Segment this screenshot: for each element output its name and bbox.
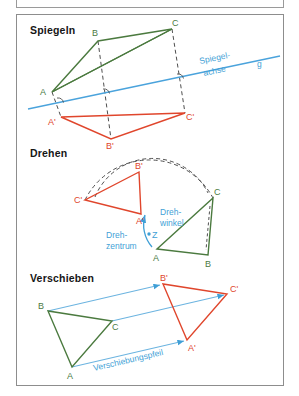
rotation-center-point-Z: Z (152, 230, 158, 240)
mirror-axis-label-line2: achse (202, 63, 227, 77)
vertex-label-A-verschieben: A (67, 371, 73, 381)
rotation-center-label-line2: zentrum (106, 241, 137, 251)
vertex-label-A-spiegeln: A (40, 87, 46, 97)
vertex-label-C-prime-spiegeln: C' (186, 112, 194, 122)
rotation-angle-arc (144, 215, 152, 247)
vertex-label-A-prime-verschieben: A' (188, 343, 196, 353)
vertex-label-A-drehen: A (153, 253, 159, 263)
triangle-original-verschieben (48, 311, 112, 367)
triangle-image-drehen (85, 172, 141, 214)
figure-root: Spiegeln Drehen Verschieben (0, 0, 299, 396)
vertex-label-B-prime-drehen: B' (135, 161, 143, 171)
triangle-image-spiegeln (61, 113, 185, 139)
rotation-angle-label-line1: Dreh- (160, 207, 181, 217)
rotation-angle-label-line2: winkel (159, 218, 184, 228)
mirror-axis-line (28, 56, 280, 109)
vertex-label-C-prime-drehen: C' (74, 195, 82, 205)
vertex-label-A-prime-spiegeln: A' (48, 117, 56, 127)
panel-verschieben-graphics: A B C A' B' C' Verschiebungspfeil (38, 273, 238, 381)
panel-spiegeln-graphics: A B C A' B' C' Spiegel- achse g (28, 18, 280, 151)
translation-arrow-label: Verschiebungspfeil (92, 347, 164, 373)
rotation-arcs (85, 158, 213, 200)
diagram-canvas: A B C A' B' C' Spiegel- achse g (0, 0, 299, 396)
vertex-label-B-spiegeln: B (92, 28, 98, 38)
vertex-label-B-prime-verschieben: B' (160, 273, 168, 283)
triangle-image-verschieben (163, 284, 227, 340)
vertex-label-B-verschieben: B (38, 301, 44, 311)
rotation-center-label-line1: Dreh- (106, 230, 127, 240)
mirror-axis-label-line1: Spiegel- (198, 50, 231, 66)
translation-arrow-B (48, 285, 160, 311)
vertex-label-A-prime-drehen: A' (136, 216, 144, 226)
vertex-label-C-prime-verschieben: C' (230, 284, 238, 294)
vertex-label-C-spiegeln: C (172, 18, 179, 28)
panel-drehen-graphics: A B C A' B' C' Dreh- winkel Dreh- zentru… (74, 158, 221, 269)
vertex-label-C-drehen: C (214, 187, 221, 197)
mirror-axis-name-g: g (257, 59, 262, 69)
right-angle-markers (57, 74, 184, 103)
rotation-center-dot (147, 232, 150, 235)
vertex-label-B-prime-spiegeln: B' (106, 141, 114, 151)
vertex-label-C-verschieben: C (112, 322, 119, 332)
vertex-label-B-drehen: B (205, 259, 211, 269)
